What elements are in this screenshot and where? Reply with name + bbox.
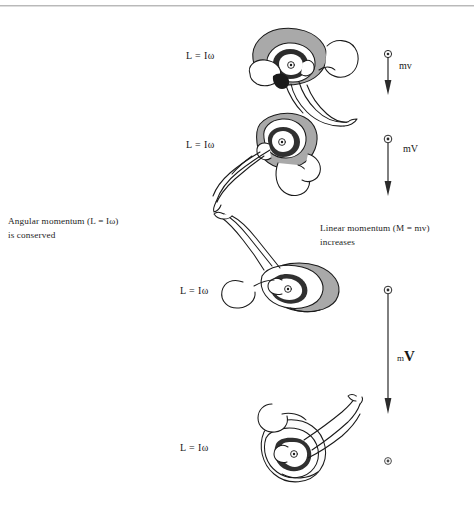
equation-label-3: L = Iω: [180, 285, 209, 296]
momentum-arrow-2: [382, 133, 394, 205]
equation-label-2: L = Iω: [186, 139, 215, 150]
momentum-label-2: mV: [403, 143, 418, 154]
diver-figure-opening-tuck: [212, 108, 352, 218]
angular-momentum-caption-line2: is conserved: [8, 228, 119, 242]
equation-label-1: L = Iω: [186, 50, 215, 61]
angular-momentum-caption: Angular momentum (L = Iω) is conserved: [8, 214, 119, 242]
diver-figure-layout: [242, 392, 367, 497]
momentum-label-3: mV: [397, 348, 415, 365]
center-of-mass-dot: [383, 452, 393, 470]
page-top-rule-secondary: [0, 6, 474, 7]
equation-label-4: L = Iω: [180, 442, 209, 453]
momentum-arrow-1: [382, 48, 394, 102]
angular-momentum-caption-line1: Angular momentum (L = Iω): [8, 214, 119, 228]
linear-momentum-caption: Linear momentum (M = mv) increases: [320, 221, 430, 249]
momentum-label-1: mv: [399, 60, 412, 71]
momentum-arrow-3: [382, 284, 394, 420]
diagram-page: L = Iω L = Iω L = Iω L = Iω Angular mome…: [0, 0, 474, 508]
momentum-label-3-v: V: [404, 348, 415, 364]
momentum-label-3-m: m: [397, 353, 404, 363]
linear-momentum-caption-line2: increases: [320, 235, 430, 249]
linear-momentum-caption-line1: Linear momentum (M = mv): [320, 221, 430, 235]
